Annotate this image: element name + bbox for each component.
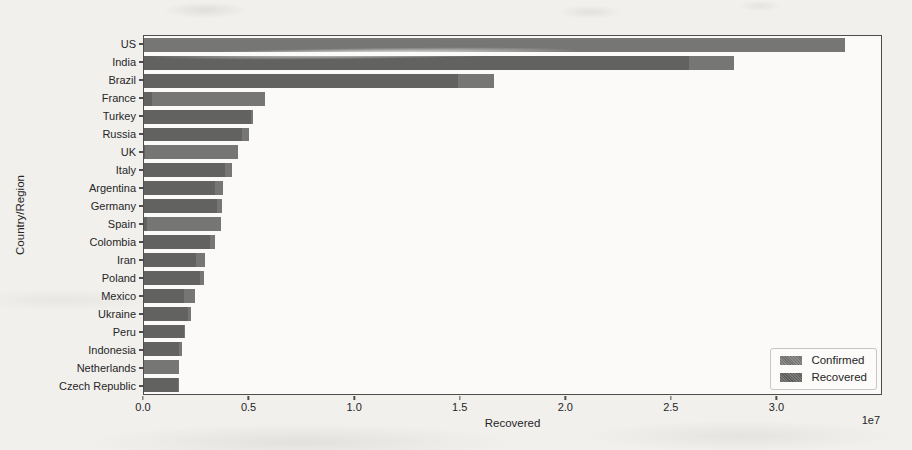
- x-tick: 0.5: [241, 396, 256, 413]
- y-tick-label: India: [112, 57, 136, 68]
- x-tick-mark: [670, 396, 672, 400]
- x-tick-label: 1.0: [346, 401, 361, 413]
- y-tick-label: Mexico: [101, 291, 136, 302]
- x-tick: 1.5: [452, 396, 467, 413]
- legend-swatch-confirmed: [780, 356, 802, 365]
- x-axis-label: Recovered: [143, 417, 882, 429]
- x-tick-mark: [776, 396, 778, 400]
- y-tick-label: Indonesia: [88, 345, 136, 356]
- legend-label: Confirmed: [811, 355, 864, 367]
- y-tick-row: Netherlands: [0, 359, 143, 377]
- bar-recovered: [144, 181, 215, 195]
- bar-recovered: [144, 235, 210, 249]
- x-tick-labels: 0.00.51.01.52.02.53.0: [143, 396, 882, 418]
- bar-recovered: [144, 110, 251, 124]
- y-tick-row: Russia: [0, 125, 143, 143]
- y-tick-row: Peru: [0, 323, 143, 341]
- y-tick-label: Ukraine: [98, 309, 136, 320]
- bar-row: [144, 197, 881, 215]
- x-tick: 0.0: [135, 396, 150, 413]
- bar-recovered: [144, 199, 217, 213]
- y-tick-label: Italy: [116, 165, 136, 176]
- plot-area: Confirmed Recovered: [143, 35, 882, 395]
- legend: Confirmed Recovered: [770, 348, 877, 390]
- x-tick: 2.0: [558, 396, 573, 413]
- bar-recovered: [144, 307, 188, 321]
- bar-confirmed: [144, 145, 238, 159]
- y-tick-row: Ukraine: [0, 305, 143, 323]
- y-tick-label: US: [121, 39, 136, 50]
- bar-row: [144, 233, 881, 251]
- y-tick-label: Colombia: [90, 237, 136, 248]
- bar-row: [144, 179, 881, 197]
- x-tick-mark: [459, 396, 461, 400]
- y-tick-labels: USIndiaBrazilFranceTurkeyRussiaUKItalyAr…: [0, 35, 143, 395]
- bar-row: [144, 143, 881, 161]
- y-tick-label: Netherlands: [77, 363, 136, 374]
- bar-recovered: [144, 325, 184, 339]
- x-tick: 3.0: [769, 396, 784, 413]
- x-tick-mark: [353, 396, 355, 400]
- legend-swatch-recovered: [780, 373, 802, 382]
- bar-recovered: [144, 289, 184, 303]
- bar-recovered: [144, 253, 196, 267]
- bar-row: [144, 287, 881, 305]
- x-tick-mark: [565, 396, 567, 400]
- y-tick-label: France: [102, 93, 136, 104]
- y-tick-row: Czech Republic: [0, 377, 143, 395]
- y-tick-label: Turkey: [103, 111, 136, 122]
- x-tick-label: 2.0: [558, 401, 573, 413]
- bar-recovered: [144, 56, 689, 70]
- y-tick-label: Brazil: [108, 75, 136, 86]
- y-tick-row: Colombia: [0, 233, 143, 251]
- x-tick-label: 3.0: [769, 401, 784, 413]
- y-tick-row: Germany: [0, 197, 143, 215]
- y-tick-row: Italy: [0, 161, 143, 179]
- x-tick-label: 2.5: [663, 401, 678, 413]
- x-tick-label: 0.0: [135, 401, 150, 413]
- bar-row: [144, 251, 881, 269]
- legend-item: Recovered: [780, 372, 867, 384]
- y-tick-label: UK: [121, 147, 136, 158]
- y-tick-row: France: [0, 89, 143, 107]
- y-tick-row: Poland: [0, 269, 143, 287]
- y-tick-row: Indonesia: [0, 341, 143, 359]
- x-tick: 2.5: [663, 396, 678, 413]
- x-tick-label: 0.5: [241, 401, 256, 413]
- bar-recovered: [144, 378, 178, 392]
- y-tick-label: Argentina: [89, 183, 136, 194]
- bar-row: [144, 305, 881, 323]
- bar-row: [144, 269, 881, 287]
- bar-row: [144, 126, 881, 144]
- y-tick-row: Spain: [0, 215, 143, 233]
- y-tick-label: Czech Republic: [59, 381, 136, 392]
- bar-confirmed: [144, 360, 179, 374]
- bar-confirmed: [144, 92, 265, 106]
- y-tick-row: Brazil: [0, 71, 143, 89]
- y-tick-row: Mexico: [0, 287, 143, 305]
- bar-confirmed: [144, 217, 221, 231]
- bar-row: [144, 54, 881, 72]
- bar-row: [144, 108, 881, 126]
- y-tick-label: Poland: [102, 273, 136, 284]
- bar-recovered: [144, 163, 225, 177]
- x-tick-mark: [142, 396, 144, 400]
- legend-label: Recovered: [811, 372, 867, 384]
- y-tick-label: Iran: [117, 255, 136, 266]
- bar-recovered: [144, 217, 147, 231]
- bar-recovered: [144, 92, 152, 106]
- bar-confirmed: [144, 38, 845, 52]
- bar-row: [144, 323, 881, 341]
- bar-row: [144, 215, 881, 233]
- y-tick-row: Iran: [0, 251, 143, 269]
- y-tick-label: Peru: [113, 327, 136, 338]
- y-tick-label: Spain: [108, 219, 136, 230]
- bars-layer: [144, 36, 881, 394]
- axis-offset-text: 1e7: [862, 414, 880, 426]
- x-tick-mark: [248, 396, 250, 400]
- y-tick-row: India: [0, 53, 143, 71]
- bar-row: [144, 161, 881, 179]
- bar-row: [144, 90, 881, 108]
- y-tick-label: Germany: [91, 201, 136, 212]
- bar-row: [144, 72, 881, 90]
